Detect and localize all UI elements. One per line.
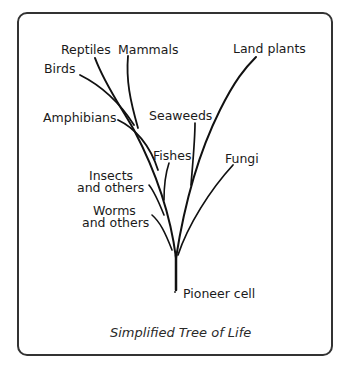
branch-fishes bbox=[164, 163, 169, 200]
label-insects-line2: and others bbox=[77, 180, 144, 195]
diagram-caption: Simplified Tree of Life bbox=[110, 325, 251, 340]
branch-fungi bbox=[178, 165, 233, 255]
tree-of-life-diagram: Reptiles Mammals Birds Land plants Amphi… bbox=[0, 0, 345, 376]
label-land-plants: Land plants bbox=[233, 41, 306, 56]
label-seaweeds: Seaweeds bbox=[149, 108, 212, 123]
label-amphibians: Amphibians bbox=[43, 110, 117, 125]
label-mammals: Mammals bbox=[118, 42, 178, 57]
label-pioneer-cell: Pioneer cell bbox=[183, 286, 255, 301]
label-fishes: Fishes bbox=[153, 148, 191, 163]
label-birds: Birds bbox=[44, 61, 75, 76]
label-worms-line2: and others bbox=[82, 215, 149, 230]
label-reptiles: Reptiles bbox=[61, 42, 111, 57]
root-dot bbox=[174, 291, 176, 293]
branch-insects bbox=[149, 185, 164, 215]
label-fungi: Fungi bbox=[225, 151, 259, 166]
